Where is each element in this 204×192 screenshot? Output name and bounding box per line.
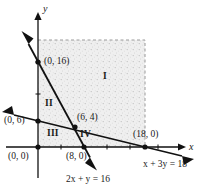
x-axis-label: x [189, 142, 193, 152]
point-dot-0-16 [35, 59, 40, 64]
line-x-plus-3y-arrow-left-icon [2, 106, 14, 115]
point-label-18-0: (18, 0) [133, 130, 158, 140]
equation-label-x-plus-3y: x + 3y = 18 [143, 160, 187, 170]
point-dot-8-0 [81, 144, 86, 149]
point-label-8-0: (8, 0) [66, 152, 87, 162]
line-2x-plus-y-arrow-top-icon [22, 31, 34, 44]
point-dot-6-4 [72, 124, 77, 129]
point-dot-origin [35, 144, 40, 149]
region-label-two: II [45, 99, 53, 109]
y-axis-arrow-icon [34, 12, 41, 20]
point-dot-18-0 [142, 144, 147, 149]
y-axis-label: y [43, 4, 47, 14]
region-label-one: I [103, 72, 107, 82]
point-label-6-4: (6, 4) [77, 113, 98, 123]
point-label-0-16: (0, 16) [44, 57, 69, 67]
region-label-four: IV [80, 130, 91, 140]
equation-label-2x-plus-y: 2x + y = 16 [66, 175, 110, 185]
point-label-0-6: (0, 6) [4, 116, 25, 126]
x-axis-arrow-icon [178, 143, 186, 150]
graph-figure: y x (0, 16) (0, 6) (6, 4) (0, 0) (8, 0) … [0, 0, 204, 192]
point-dot-0-6 [35, 118, 40, 123]
region-label-three: III [47, 129, 59, 139]
point-label-0-0: (0, 0) [8, 152, 29, 162]
